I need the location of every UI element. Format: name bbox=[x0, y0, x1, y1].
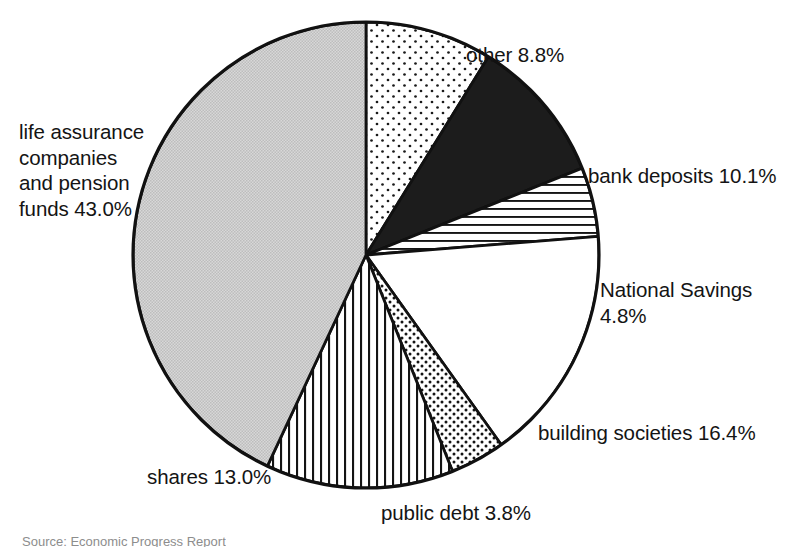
pie-label-bank-deposits: bank deposits 10.1% bbox=[588, 163, 776, 189]
pie-label-national-savings: National Savings4.8% bbox=[600, 277, 752, 328]
pie-chart-graphic bbox=[0, 0, 800, 547]
pie-label-life-assurance-line2: companies bbox=[19, 146, 117, 169]
pie-label-building-societies: building societies 16.4% bbox=[538, 420, 756, 446]
pie-chart-figure: life assurancecompaniesand pensionfunds … bbox=[0, 0, 800, 547]
pie-label-life-assurance-line1: life assurance bbox=[19, 120, 144, 143]
pie-label-life-assurance: life assurancecompaniesand pensionfunds … bbox=[19, 119, 144, 221]
pie-label-public-debt: public debt 3.8% bbox=[381, 500, 531, 526]
figure-source-caption: Source: Economic Progress Report bbox=[22, 534, 226, 547]
pie-label-shares: shares 13.0% bbox=[147, 464, 271, 490]
pie-label-life-assurance-line4: funds 43.0% bbox=[19, 197, 132, 220]
pie-slices-group bbox=[133, 22, 599, 488]
pie-label-national-savings-line1: National Savings bbox=[600, 278, 752, 301]
pie-label-national-savings-line2: 4.8% bbox=[600, 304, 646, 327]
pie-label-life-assurance-line3: and pension bbox=[19, 171, 130, 194]
pie-label-other: other 8.8% bbox=[466, 42, 564, 68]
